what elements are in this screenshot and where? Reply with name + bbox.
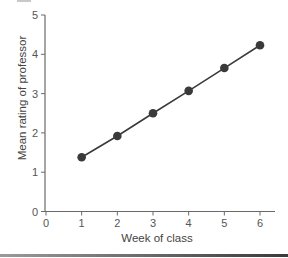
- data-point-marker: [77, 153, 86, 162]
- plot-area: [77, 41, 264, 162]
- y-axis: 012345: [32, 9, 45, 218]
- x-tick-label: 2: [114, 217, 120, 229]
- x-tick-label: 0: [43, 217, 49, 229]
- data-point-marker: [149, 109, 158, 118]
- x-axis-title: Week of class: [121, 232, 193, 244]
- data-point-marker: [220, 64, 229, 73]
- y-tick-label: 5: [32, 9, 38, 21]
- y-axis-title: Mean rating of professor: [16, 36, 28, 161]
- data-point-marker: [256, 41, 265, 50]
- y-tick-label: 3: [32, 88, 38, 100]
- data-point-marker: [113, 132, 122, 141]
- y-tick-label: 4: [32, 48, 38, 60]
- bottom-rule: [0, 254, 288, 257]
- x-tick-label: 5: [221, 217, 227, 229]
- x-tick-label: 4: [186, 217, 192, 229]
- x-axis: 0123456: [42, 212, 275, 229]
- data-point-marker: [184, 87, 193, 96]
- x-tick-label: 1: [79, 217, 85, 229]
- line-chart: 012345 0123456 Week of class Mean rating…: [0, 0, 288, 258]
- x-tick-label: 3: [150, 217, 156, 229]
- x-tick-label: 6: [257, 217, 263, 229]
- series-line: [82, 45, 260, 157]
- y-tick-label: 1: [32, 166, 38, 178]
- y-tick-label: 2: [32, 127, 38, 139]
- y-tick-label: 0: [32, 206, 38, 218]
